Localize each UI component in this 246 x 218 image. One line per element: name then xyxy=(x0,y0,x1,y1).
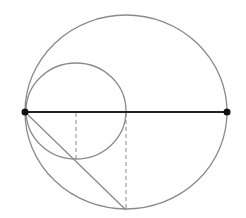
left-endpoint-dot xyxy=(22,109,29,116)
right-endpoint-dot xyxy=(224,109,231,116)
geometry-diagram xyxy=(0,0,246,218)
